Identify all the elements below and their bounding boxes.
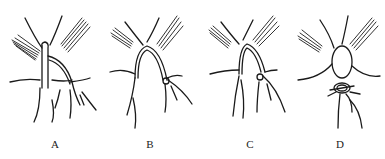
panel-label-a: A (45, 138, 65, 150)
panel-c: C (195, 0, 295, 159)
panel-d-drawing (290, 0, 385, 159)
hair-tuft-right-icon (147, 16, 183, 50)
panel-d: D (290, 0, 385, 159)
panel-label-c: C (240, 138, 260, 150)
panel-b-drawing (95, 0, 195, 159)
panel-label-d: D (330, 138, 350, 150)
hair-tuft-left-icon (12, 18, 42, 60)
hair-tuft-right-icon (50, 16, 90, 52)
panel-a: A (0, 0, 100, 159)
panel-b: B (95, 0, 195, 159)
hair-tuft-right-icon (342, 16, 378, 50)
hair-tuft-right-icon (243, 16, 279, 46)
knot-icon (328, 83, 360, 96)
panel-a-drawing (0, 0, 100, 159)
hair-tuft-left-icon (209, 22, 239, 48)
hair-tuft-left-icon (298, 20, 334, 52)
hair-tuft-left-icon (111, 22, 143, 48)
panel-label-b: B (140, 138, 160, 150)
panel-c-drawing (195, 0, 295, 159)
